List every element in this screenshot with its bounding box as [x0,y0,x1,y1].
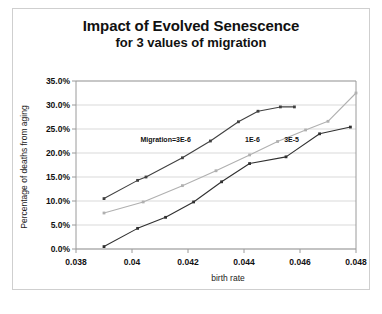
data-point-marker [318,132,321,135]
chart-panel: Impact of Evolved Senescence for 3 value… [12,8,370,290]
y-axis-tick-label: 30.0% [46,100,71,110]
data-point-marker [220,180,223,183]
data-point-marker [304,129,307,132]
y-axis-tick-labels: 0.0%5.0%10.0%15.0%20.0%25.0%30.0%35.0% [46,76,76,254]
data-point-marker [215,169,218,172]
data-point-marker [248,154,251,157]
data-point-marker [103,212,106,215]
data-point-marker [192,201,195,204]
data-point-marker [164,216,167,219]
y-axis-tick-label: 0.0% [51,244,71,254]
series-annotation-label: 1E-6 [245,136,260,143]
line-chart: 0.0%5.0%10.0%15.0%20.0%25.0%30.0%35.0% 0… [13,9,371,291]
x-axis-tick-label: 0.042 [177,257,199,267]
data-point-marker [276,140,279,143]
series-annotation-label: 3E-5 [284,136,299,143]
data-point-marker [355,92,358,95]
y-axis-tick-label: 15.0% [46,172,71,182]
data-point-marker [145,176,148,179]
data-point-marker [181,184,184,187]
x-axis-title: birth rate [211,273,245,283]
data-point-marker [103,245,106,248]
y-axis-tick-label: 20.0% [46,148,71,158]
data-point-marker [349,126,352,129]
data-point-marker [293,106,296,109]
series-line [104,127,350,247]
y-axis-title: Percentage of deaths from aging [19,105,29,229]
data-point-marker [237,120,240,123]
x-axis-tick-label: 0.04 [124,257,141,267]
y-axis-tick-label: 10.0% [46,196,71,206]
data-point-marker [103,197,106,200]
gridlines [76,81,356,249]
data-point-marker [181,156,184,159]
series-annotations: Migration=3E-61E-63E-5 [140,136,299,144]
x-axis-tick-label: 0.048 [345,257,367,267]
x-axis-tick-labels: 0.0380.040.0420.0440.0460.048 [65,249,367,267]
data-point-marker [136,227,139,230]
data-point-marker [257,110,260,113]
x-axis-tick-label: 0.044 [233,257,255,267]
x-axis-tick-label: 0.038 [65,257,87,267]
data-point-marker [142,201,145,204]
y-axis-tick-label: 5.0% [51,220,71,230]
data-point-marker [209,140,212,143]
data-point-marker [248,162,251,165]
x-axis-tick-label: 0.046 [289,257,311,267]
y-axis-tick-label: 25.0% [46,124,71,134]
data-series [103,126,352,248]
axis-lines [76,81,356,249]
y-axis-tick-label: 35.0% [46,76,71,86]
series-annotation-label: Migration=3E-6 [140,136,190,144]
data-point-marker [279,106,282,109]
data-point-marker [327,120,330,123]
data-point-marker [285,155,288,158]
data-point-marker [136,179,139,182]
